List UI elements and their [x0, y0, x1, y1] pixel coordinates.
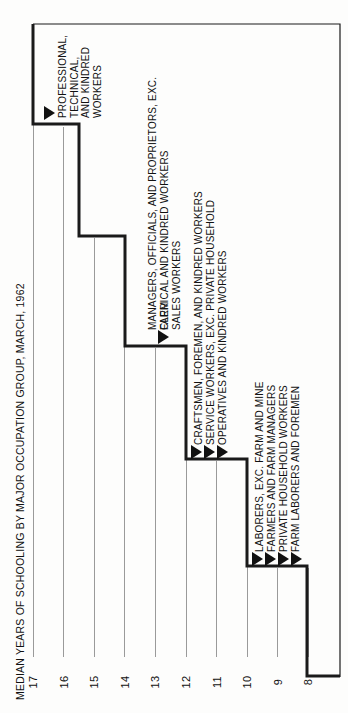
group-label-private-household: PRIVATE HOUSEHOLD WORKERS: [278, 385, 290, 552]
axis-tick-9: 9: [272, 671, 284, 693]
group-label-operatives: OPERATIVES AND KINDRED WORKERS: [217, 250, 229, 445]
group-label-line: AND KINDRED: [80, 35, 92, 118]
axis-tick-16: 16: [58, 671, 70, 693]
group-label-line: PRIVATE HOUSEHOLD WORKERS: [278, 385, 290, 552]
value-marker-managers-clerical-sales: [158, 330, 169, 344]
axis-tick-17: 17: [27, 671, 39, 693]
group-label-craftsmen: CRAFTSMEN, FOREMEN, AND KINDRED WORKERS: [193, 191, 205, 445]
group-label-professional: PROFESSIONAL, TECHNICAL, AND KINDRED WOR…: [57, 35, 103, 118]
value-marker-farmers: [265, 552, 276, 566]
group-label-line: SERVICE WORKERS, EXC. PRIVATE HOUSEHOLD: [205, 200, 217, 445]
axis-tick-12: 12: [180, 671, 192, 693]
value-marker-laborers: [252, 552, 263, 566]
value-marker-craftsmen: [191, 445, 202, 459]
axis-tick-11: 11: [211, 671, 223, 693]
axis-tick-10: 10: [241, 671, 253, 693]
group-label-sales: SALES WORKERS: [171, 241, 183, 330]
axis-tick-14: 14: [119, 671, 131, 693]
axis-tick-15: 15: [88, 671, 100, 693]
group-label-line: MANAGERS, OFFICIALS, AND PROPRIETORS, EX…: [147, 77, 159, 330]
axis-tick-8: 8: [302, 671, 314, 693]
group-label-service-workers: SERVICE WORKERS, EXC. PRIVATE HOUSEHOLD: [205, 200, 217, 445]
value-marker-private-household: [278, 552, 289, 566]
group-label-line: WORKERS: [92, 35, 104, 118]
group-label-line: SALES WORKERS: [171, 241, 183, 330]
value-marker-operatives: [217, 445, 228, 459]
chart-canvas: MEDIAN YEARS OF SCHOOLING BY MAJOR OCCUP…: [0, 0, 348, 713]
chart-title: MEDIAN YEARS OF SCHOOLING BY MAJOR OCCUP…: [14, 283, 26, 700]
group-label-line: PROFESSIONAL,: [57, 35, 69, 118]
group-label-farmers: FARMERS AND FARM MANAGERS: [266, 385, 278, 552]
group-label-clerical: CLERICAL AND KINDRED WORKERS: [159, 150, 171, 330]
value-marker-service-workers: [204, 445, 215, 459]
group-label-farm-laborers: FARM LABORERS AND FOREMEN: [290, 386, 302, 552]
group-label-line: CLERICAL AND KINDRED WORKERS: [159, 150, 171, 330]
group-label-line: LABORERS, EXC. FARM AND MINE: [254, 381, 266, 552]
group-label-line: FARM LABORERS AND FOREMEN: [290, 386, 302, 552]
group-label-line: FARMERS AND FARM MANAGERS: [266, 385, 278, 552]
group-label-line: CRAFTSMEN, FOREMEN, AND KINDRED WORKERS: [193, 191, 205, 445]
value-marker-professional: [44, 106, 55, 120]
group-label-laborers: LABORERS, EXC. FARM AND MINE: [254, 381, 266, 552]
group-label-line: OPERATIVES AND KINDRED WORKERS: [217, 250, 229, 445]
axis-tick-13: 13: [149, 671, 161, 693]
group-label-line: TECHNICAL,: [69, 35, 81, 118]
value-marker-farm-laborers: [291, 552, 302, 566]
